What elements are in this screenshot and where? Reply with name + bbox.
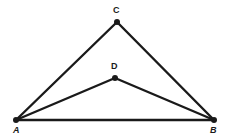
vertex-dot-a: [13, 117, 19, 123]
vertex-dot-c: [114, 19, 120, 25]
vertex-dot-d: [112, 75, 118, 81]
vertex-label-a: A: [13, 126, 20, 135]
segment-db: [115, 78, 214, 120]
vertex-label-c: C: [113, 6, 120, 15]
geometry-figure: A B C D: [0, 0, 233, 139]
segment-ad: [16, 78, 115, 120]
segment-ac: [16, 22, 117, 120]
segment-group: [16, 22, 214, 120]
vertex-label-b: B: [210, 126, 217, 135]
segment-cb: [117, 22, 214, 120]
vertex-dot-b: [211, 117, 217, 123]
vertex-label-d: D: [111, 62, 118, 71]
